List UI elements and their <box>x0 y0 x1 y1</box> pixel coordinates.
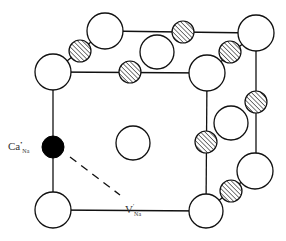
cation-circle <box>219 41 241 63</box>
defect-association-line <box>70 157 120 195</box>
anion-circle <box>238 15 274 51</box>
anion-circle <box>237 153 273 189</box>
dopant-label: Ca•Na <box>8 140 29 154</box>
vacancy-label-base: V <box>125 203 133 215</box>
dopant-label-sup: • <box>20 140 22 146</box>
cation-circle <box>119 61 141 83</box>
anion-circle <box>116 126 150 160</box>
anion-circle <box>189 55 225 91</box>
cation-circle <box>69 40 91 62</box>
crystal-structure-diagram <box>0 0 286 241</box>
ca-dopant-circle <box>42 136 64 158</box>
anion-circle <box>87 13 123 49</box>
anion-circle <box>35 54 71 90</box>
anion-circle <box>214 106 248 140</box>
cation-circle <box>172 21 194 43</box>
cation-circle <box>220 180 242 202</box>
vacancy-label-sup: ' <box>133 203 134 209</box>
vacancy-label-sub: Na <box>134 211 141 217</box>
cation-circle <box>245 91 267 113</box>
dopant-label-base: Ca <box>8 140 20 152</box>
anion-circle <box>189 194 223 228</box>
anion-circle <box>35 192 71 228</box>
cation-circle <box>195 131 217 153</box>
anion-circle <box>140 35 174 69</box>
vacancy-label: V'Na <box>125 203 141 217</box>
dopant-label-sub: Na <box>22 148 29 154</box>
